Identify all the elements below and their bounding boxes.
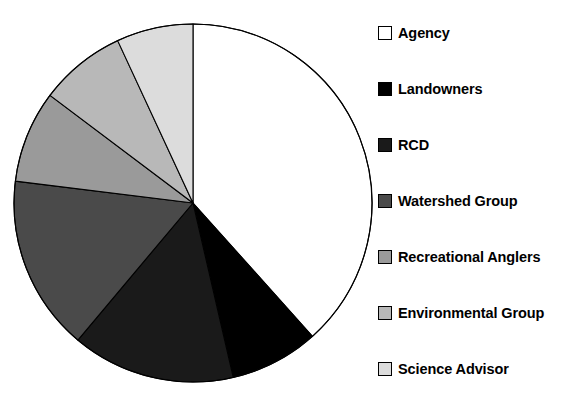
legend-item-landowners[interactable]: Landowners xyxy=(378,79,482,99)
legend-item-watershed-group[interactable]: Watershed Group xyxy=(378,191,518,211)
legend-item-agency[interactable]: Agency xyxy=(378,23,450,43)
legend-swatch-landowners xyxy=(378,82,392,96)
legend-swatch-recreational-anglers xyxy=(378,250,392,264)
legend-swatch-science-advisor xyxy=(378,362,392,376)
legend-label: RCD xyxy=(398,138,429,153)
legend-label: Environmental Group xyxy=(398,306,544,321)
legend-item-environmental-group[interactable]: Environmental Group xyxy=(378,303,544,323)
legend-item-recreational-anglers[interactable]: Recreational Anglers xyxy=(378,247,541,267)
pie-slice-group xyxy=(14,24,372,382)
pie-plot-area xyxy=(0,0,375,401)
pie-svg xyxy=(0,0,375,401)
legend-item-science-advisor[interactable]: Science Advisor xyxy=(378,359,509,379)
legend-swatch-agency xyxy=(378,26,392,40)
legend-label: Watershed Group xyxy=(398,194,518,209)
legend-swatch-environmental-group xyxy=(378,306,392,320)
legend-item-rcd[interactable]: RCD xyxy=(378,135,429,155)
chart-legend: AgencyLandownersRCDWatershed GroupRecrea… xyxy=(378,0,576,401)
legend-swatch-watershed-group xyxy=(378,194,392,208)
legend-label: Recreational Anglers xyxy=(398,250,541,265)
legend-label: Agency xyxy=(398,26,450,41)
legend-swatch-rcd xyxy=(378,138,392,152)
pie-chart-figure: AgencyLandownersRCDWatershed GroupRecrea… xyxy=(0,0,576,401)
legend-label: Landowners xyxy=(398,82,482,97)
legend-label: Science Advisor xyxy=(398,362,509,377)
